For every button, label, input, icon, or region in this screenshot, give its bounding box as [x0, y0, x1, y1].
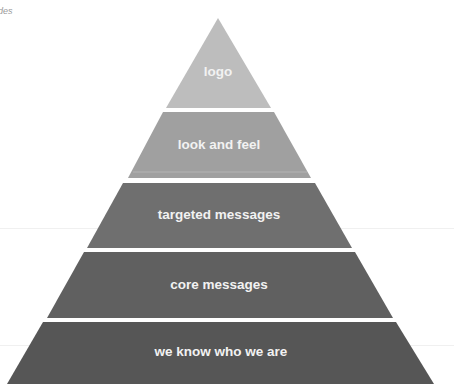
tier-shape	[166, 18, 271, 108]
tier-label: look and feel	[178, 137, 261, 152]
tier-targeted-messages: targeted messages	[87, 183, 352, 248]
tier-label: we know who we are	[154, 344, 288, 359]
tier-core-messages: core messages	[47, 252, 393, 318]
tier-we-know-who-we-are: we know who we are	[7, 322, 434, 384]
tier-label: targeted messages	[158, 207, 280, 222]
tier-logo: logo	[166, 18, 271, 108]
pyramid-diagram: logo look and feel targeted messages cor…	[0, 0, 454, 384]
tier-look-and-feel: look and feel	[128, 112, 311, 178]
tier-label: logo	[204, 64, 233, 79]
tier-label: core messages	[170, 277, 268, 292]
